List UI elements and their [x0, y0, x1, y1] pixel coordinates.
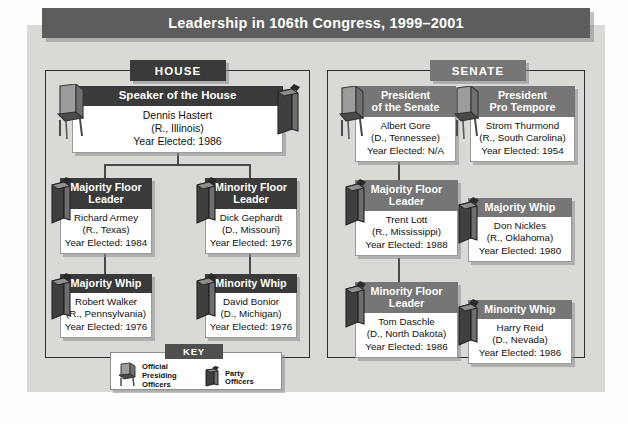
page-title: Leadership in 106th Congress, 1999–2001	[168, 15, 464, 31]
card-role: Majority Whip	[60, 274, 152, 293]
card-role: President Pro Tempore	[470, 86, 575, 117]
role-line-2: Leader	[389, 195, 424, 207]
officer-name: Richard Armey	[63, 212, 149, 224]
officer-year-elected: Year Elected: 1976	[63, 321, 149, 333]
officer-party-state: (R., South Carolina)	[473, 132, 572, 144]
officer-name: Robert Walker	[63, 296, 149, 308]
officer-name: Trent Lott	[358, 214, 455, 226]
diagram-title-bar: Leadership in 106th Congress, 1999–2001	[42, 8, 590, 38]
officer-year-elected: Year Elected: 1976	[208, 321, 294, 333]
card-president-of-the-senate[interactable]: President of the Senate Albert Gore (D.,…	[355, 86, 456, 162]
card-body: Tom Daschle (D., North Dakota) Year Elec…	[355, 313, 458, 358]
card-senate-minority-whip[interactable]: Minority Whip Harry Reid (D., Nevada) Ye…	[468, 300, 572, 364]
officer-party-state: (D., North Dakota)	[358, 328, 455, 340]
card-house-majority-whip[interactable]: Majority Whip Robert Walker (R., Pennsyl…	[60, 274, 152, 338]
role-line-2: Leader	[233, 193, 268, 205]
card-house-minority-whip[interactable]: Minority Whip David Bonior (D., Michigan…	[205, 274, 297, 338]
senate-section-label: SENATE	[430, 60, 526, 81]
card-role: Minority Whip	[205, 274, 297, 293]
key-entry-party-officers: Party Officers	[203, 365, 254, 392]
role-line-1: Minority Floor	[371, 285, 443, 297]
connector-to-minority-whip	[249, 252, 251, 274]
card-role: Majority Floor Leader	[355, 180, 458, 211]
officer-name: Harry Reid	[471, 322, 569, 334]
card-senate-minority-floor-leader[interactable]: Minority Floor Leader Tom Daschle (D., N…	[355, 282, 458, 358]
officer-year-elected: Year Elected: 1954	[473, 145, 572, 157]
officer-year-elected: Year Elected: 1976	[208, 237, 294, 249]
officer-name: Dennis Hastert	[75, 109, 280, 122]
chair-icon	[118, 362, 138, 391]
role-line-2: Leader	[389, 297, 424, 309]
role-line-2: of the Senate	[372, 101, 440, 113]
card-senate-majority-floor-leader[interactable]: Majority Floor Leader Trent Lott (R., Mi…	[355, 180, 458, 256]
officer-year-elected: Year Elected: N/A	[358, 145, 453, 157]
card-body: Don Nickles (R., Oklahoma) Year Elected:…	[468, 217, 572, 262]
connector-senate-minority	[398, 258, 400, 282]
officer-party-state: (R., Pennsylvania)	[63, 308, 149, 320]
card-role: Speaker of the House	[72, 86, 283, 106]
card-body: Dennis Hastert (R., Illinois) Year Elect…	[72, 106, 283, 153]
officer-name: David Bonior	[208, 296, 294, 308]
card-body: Albert Gore (D., Tennessee) Year Elected…	[355, 117, 456, 162]
card-body: Robert Walker (R., Pennsylvania) Year El…	[60, 293, 152, 338]
card-body: Trent Lott (R., Mississippi) Year Electe…	[355, 211, 458, 256]
officer-name: Tom Daschle	[358, 316, 455, 328]
officer-year-elected: Year Elected: 1984	[63, 237, 149, 249]
officer-party-state: (D., Nevada)	[471, 334, 569, 346]
card-speaker-of-the-house[interactable]: Speaker of the House Dennis Hastert (R.,…	[72, 86, 283, 153]
card-body: Strom Thurmond (R., South Carolina) Year…	[470, 117, 575, 162]
key-text-line-3: Officers	[142, 381, 177, 390]
officer-name: Albert Gore	[358, 120, 453, 132]
role-line-2: Leader	[88, 193, 123, 205]
key-entry-presiding-officers: Official Presiding Officers	[118, 362, 177, 391]
role-line-1: Majority Floor	[70, 181, 141, 193]
role-line-1: Majority Floor	[371, 183, 442, 195]
connector-house-branch	[104, 164, 250, 166]
officer-party-state: (D., Tennessee)	[358, 132, 453, 144]
officer-name: Don Nickles	[471, 220, 569, 232]
card-body: David Bonior (D., Michigan) Year Elected…	[205, 293, 297, 338]
key-entry-text: Party Officers	[225, 370, 254, 387]
officer-year-elected: Year Elected: 1980	[471, 245, 569, 257]
officer-party-state: (D., Missouri)	[208, 224, 294, 236]
card-president-pro-tempore[interactable]: President Pro Tempore Strom Thurmond (R.…	[470, 86, 575, 162]
role-line-1: President	[381, 89, 430, 101]
connector-to-majority-whip	[104, 252, 106, 274]
card-role: Minority Whip	[468, 300, 572, 319]
card-body: Richard Armey (R., Texas) Year Elected: …	[60, 209, 152, 254]
officer-name: Strom Thurmond	[473, 120, 572, 132]
card-role: President of the Senate	[355, 86, 456, 117]
officer-party-state: (R., Mississippi)	[358, 226, 455, 238]
connector-to-majority-leader	[104, 164, 106, 178]
page-background: Leadership in 106th Congress, 1999–2001 …	[0, 0, 628, 424]
card-role: Minority Floor Leader	[355, 282, 458, 313]
key-text-line-2: Officers	[225, 378, 254, 387]
role-line-2: Pro Tempore	[490, 101, 556, 113]
house-section-label: HOUSE	[130, 60, 226, 81]
officer-year-elected: Year Elected: 1986	[471, 347, 569, 359]
connector-to-minority-leader	[249, 164, 251, 178]
card-senate-majority-whip[interactable]: Majority Whip Don Nickles (R., Oklahoma)…	[468, 198, 572, 262]
card-role: Majority Whip	[468, 198, 572, 217]
officer-party-state: (R., Oklahoma)	[471, 232, 569, 244]
officer-name: Dick Gephardt	[208, 212, 294, 224]
role-line-1: President	[498, 89, 547, 101]
key-entry-text: Official Presiding Officers	[142, 363, 177, 389]
key-legend-label: KEY	[165, 344, 223, 359]
card-role: Majority Floor Leader	[60, 178, 152, 209]
card-body: Harry Reid (D., Nevada) Year Elected: 19…	[468, 319, 572, 364]
role-line-1: Minority Floor	[215, 181, 287, 193]
podium-icon	[203, 365, 221, 392]
card-house-minority-floor-leader[interactable]: Minority Floor Leader Dick Gephardt (D.,…	[205, 178, 297, 254]
card-body: Dick Gephardt (D., Missouri) Year Electe…	[205, 209, 297, 254]
officer-year-elected: Year Elected: 1988	[358, 239, 455, 251]
officer-party-state: (R., Texas)	[63, 224, 149, 236]
officer-party-state: (D., Michigan)	[208, 308, 294, 320]
officer-year-elected: Year Elected: 1986	[358, 341, 455, 353]
card-role: Minority Floor Leader	[205, 178, 297, 209]
officer-year-elected: Year Elected: 1986	[75, 135, 280, 148]
card-house-majority-floor-leader[interactable]: Majority Floor Leader Richard Armey (R.,…	[60, 178, 152, 254]
officer-party-state: (R., Illinois)	[75, 122, 280, 135]
